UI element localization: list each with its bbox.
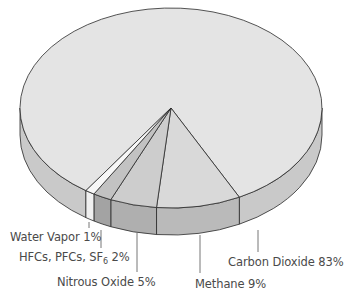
label-name: HFCs, PFCs, SF — [19, 250, 103, 264]
pie-tops — [20, 8, 322, 208]
label-name: Methane — [195, 277, 245, 291]
label-carbon-dioxide: Carbon Dioxide 83% — [228, 255, 344, 269]
label-value: 83% — [318, 255, 343, 269]
label-value: 1% — [83, 230, 101, 244]
label-value: 5% — [137, 275, 155, 289]
label-value: 2% — [112, 250, 130, 264]
label-methane: Methane 9% — [195, 277, 266, 291]
label-value: 9% — [248, 277, 266, 291]
label-water-vapor: Water Vapor 1% — [10, 230, 101, 244]
label-nitrous-oxide: Nitrous Oxide 5% — [57, 275, 156, 289]
label-name: Nitrous Oxide — [57, 275, 134, 289]
label-name: Water Vapor — [10, 230, 80, 244]
label-subscript: 6 — [103, 257, 108, 266]
side-hatch — [86, 191, 94, 221]
label-hfcs: HFCs, PFCs, SF6 2% — [19, 250, 130, 266]
label-name: Carbon Dioxide — [228, 255, 315, 269]
